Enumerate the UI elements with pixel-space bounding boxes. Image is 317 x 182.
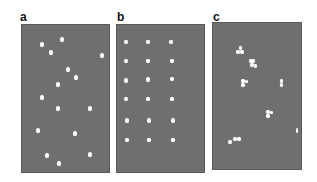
dot — [88, 152, 92, 157]
dot — [146, 40, 150, 44]
dot — [57, 161, 61, 166]
dot — [254, 64, 257, 68]
dot — [228, 140, 232, 144]
dot — [88, 106, 92, 111]
dot — [270, 111, 273, 114]
dot — [237, 137, 241, 141]
dot — [40, 42, 44, 47]
dot — [124, 97, 128, 101]
dot — [56, 106, 60, 111]
dot — [66, 67, 70, 72]
dot — [170, 59, 174, 63]
dot — [146, 77, 150, 82]
dot — [125, 138, 129, 142]
dot — [170, 77, 174, 81]
dot — [36, 128, 40, 133]
dot — [280, 83, 283, 87]
dot — [56, 82, 60, 87]
dot — [73, 131, 77, 136]
dot — [40, 95, 44, 100]
dot — [171, 138, 175, 142]
dot — [240, 50, 244, 54]
dot — [147, 138, 151, 142]
dot — [170, 97, 174, 101]
dot — [146, 97, 150, 101]
dot — [245, 80, 248, 83]
dot — [146, 59, 150, 63]
dot — [60, 37, 64, 42]
dot — [74, 75, 78, 80]
panel-label-b: b — [117, 11, 124, 23]
dot — [296, 128, 298, 133]
dot — [241, 83, 245, 87]
dot — [45, 153, 49, 158]
dot — [124, 78, 128, 83]
dot — [49, 50, 53, 55]
dot — [124, 40, 128, 44]
panel-a — [21, 24, 110, 173]
panel-label-a: a — [20, 11, 27, 23]
dot — [100, 53, 104, 58]
dot — [171, 118, 175, 123]
dot — [266, 114, 270, 118]
dot — [124, 59, 128, 63]
dot — [169, 40, 173, 44]
panel-b — [116, 24, 205, 173]
dot — [125, 118, 129, 123]
panel-c — [212, 22, 302, 170]
dot — [147, 118, 151, 123]
